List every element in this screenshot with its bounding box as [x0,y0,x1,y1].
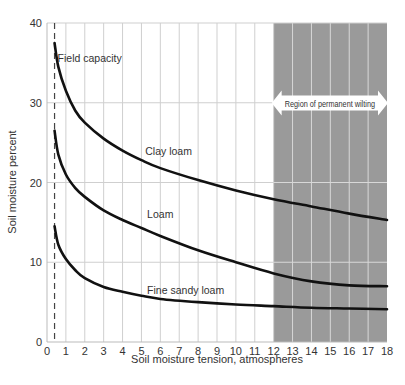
x-tick-label: 1 [63,345,69,357]
x-tick-label: 4 [119,345,125,357]
y-tick-label: 20 [30,177,42,189]
field-capacity-label: Field capacity [58,52,123,64]
x-tick-label: 14 [305,345,317,357]
y-tick-label: 10 [30,256,42,268]
x-tick-label: 15 [324,345,336,357]
soil-moisture-chart: 0123456789101112131415161718010203040 Fi… [0,0,405,385]
x-tick-label: 3 [101,345,107,357]
wilting-region-label: Region of permanent wilting [285,98,375,109]
x-tick-label: 17 [362,345,374,357]
y-tick-label: 40 [30,17,42,29]
x-tick-label: 0 [44,345,50,357]
x-axis-label: Soil moisture tension, atmospheres [131,353,303,365]
y-tick-label: 30 [30,97,42,109]
curve-label-clay-loam: Clay loam [145,145,192,157]
x-tick-label: 16 [343,345,355,357]
curve-label-fine-sandy-loam: Fine sandy loam [147,284,224,296]
y-axis-label: Soil moisture percent [6,130,18,233]
curve-label-loam: Loam [147,208,174,220]
y-tick-label: 0 [36,336,42,348]
x-tick-label: 18 [381,345,393,357]
x-tick-label: 2 [82,345,88,357]
